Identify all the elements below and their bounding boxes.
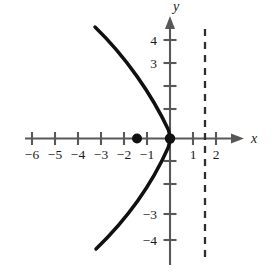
- x-tick-label--5: −5: [48, 147, 63, 162]
- plot-canvas: −6 −5 −4 −3 −2 −1 1 2 4 3 −3 −4 x y: [0, 0, 276, 273]
- x-axis-label: x: [250, 131, 258, 146]
- x-tick-label--6: −6: [25, 147, 40, 162]
- x-tick-label--2: −2: [117, 147, 131, 162]
- x-tick-label--3: −3: [94, 147, 109, 162]
- parabola-figure: −6 −5 −4 −3 −2 −1 1 2 4 3 −3 −4 x y: [0, 0, 276, 273]
- y-axis-arrow-icon: [165, 16, 175, 29]
- y-tick-label--3: −3: [143, 207, 158, 222]
- x-tick-label--4: −4: [71, 147, 86, 162]
- vertex-point: [165, 133, 175, 143]
- x-tick-label-2: 2: [213, 147, 220, 162]
- y-tick-label-4: 4: [150, 33, 157, 48]
- y-axis-label: y: [171, 0, 180, 14]
- y-tick-label-3: 3: [150, 56, 157, 71]
- focus-point: [132, 134, 142, 144]
- x-axis-arrow-icon: [231, 134, 244, 144]
- y-tick-label--4: −4: [143, 233, 158, 248]
- x-tick-label--1: −1: [140, 147, 154, 162]
- x-tick-label-1: 1: [190, 147, 197, 162]
